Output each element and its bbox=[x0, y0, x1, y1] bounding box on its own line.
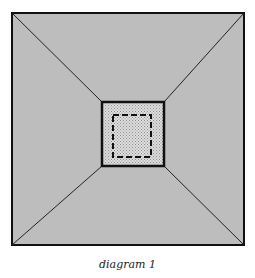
diagram-caption: diagram 1 bbox=[0, 258, 255, 271]
pyramid-frustum-diagram bbox=[0, 0, 255, 255]
inner-square bbox=[102, 102, 164, 166]
